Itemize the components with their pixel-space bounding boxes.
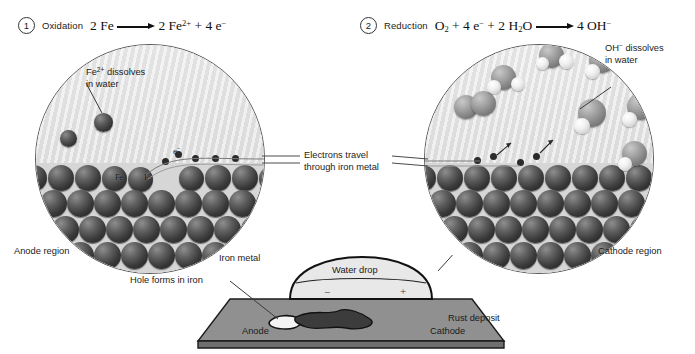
rust-deposit-label: Rust deposit xyxy=(448,313,500,323)
hole-forms-label: Hole forms in iron xyxy=(130,275,203,287)
negative-charge-sign: − xyxy=(324,286,330,298)
positive-charge-sign: + xyxy=(400,285,406,297)
water-drop-label: Water drop xyxy=(332,265,378,275)
anode-label: Anode xyxy=(242,326,269,336)
iron-plate-diagram: − + Water drop Rust deposit Anode Cathod… xyxy=(186,255,516,354)
iron-metal-label: Iron metal xyxy=(219,253,260,265)
cathode-label: Cathode xyxy=(430,326,465,336)
